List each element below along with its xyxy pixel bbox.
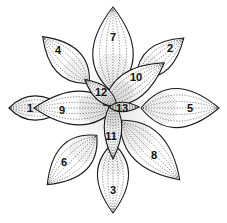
leaf-rosette-diagram: 12345678910111213 xyxy=(0,0,227,223)
leaf-label-3: 3 xyxy=(110,184,116,196)
leaf-label-7: 7 xyxy=(110,31,116,43)
leaf-label-12: 12 xyxy=(95,86,107,98)
leaf-label-13: 13 xyxy=(116,102,128,114)
leaf-label-6: 6 xyxy=(61,156,67,168)
leaf-label-5: 5 xyxy=(187,102,193,114)
leaf-label-10: 10 xyxy=(130,71,142,83)
leaf-label-9: 9 xyxy=(59,104,65,116)
leaf-label-8: 8 xyxy=(151,149,157,161)
leaf-label-1: 1 xyxy=(27,102,33,114)
leaf-label-2: 2 xyxy=(167,42,173,54)
leaf-label-4: 4 xyxy=(55,44,62,56)
leaf-label-11: 11 xyxy=(105,130,117,142)
